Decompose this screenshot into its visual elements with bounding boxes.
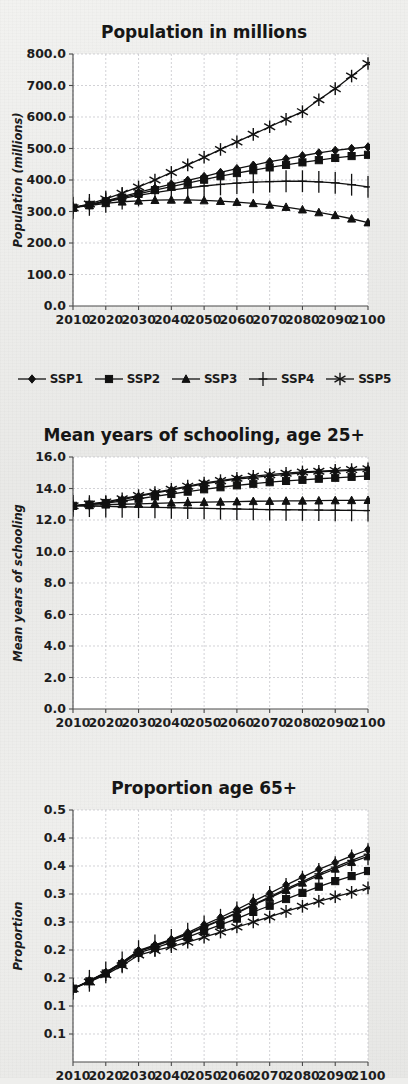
marker-square xyxy=(282,161,289,168)
x-tick-label: 2100 xyxy=(351,715,386,730)
x-tick-label: 2030 xyxy=(121,312,156,327)
y-tick-label: 0.3 xyxy=(44,886,66,901)
x-tick-label: 2020 xyxy=(88,1068,123,1083)
y-tick-label: 0.5 xyxy=(44,802,66,817)
x-tick-label: 2080 xyxy=(285,312,320,327)
x-tick-label: 2050 xyxy=(187,1068,222,1083)
legend-marker-star-icon xyxy=(325,372,355,386)
plot-area-population: 0.0100.0200.0300.0400.0500.0600.0700.080… xyxy=(0,42,408,342)
y-tick-label: 0.2 xyxy=(44,970,66,985)
legend-label: SSP2 xyxy=(127,372,160,386)
y-axis-label: Mean years of schooling xyxy=(11,504,25,662)
x-tick-label: 2070 xyxy=(252,715,287,730)
y-tick-label: 0.4 xyxy=(44,830,66,845)
marker-diamond xyxy=(28,375,35,383)
x-tick-label: 2100 xyxy=(351,1068,386,1083)
y-tick-label: 16.0 xyxy=(35,449,66,464)
schooling-chart-svg: 0.02.04.06.08.010.012.014.016.0201020202… xyxy=(0,445,408,745)
legend-item-ssp2: SSP2 xyxy=(94,372,160,386)
marker-plus xyxy=(259,372,268,386)
x-tick-label: 2090 xyxy=(318,312,353,327)
legend-label: SSP3 xyxy=(204,372,237,386)
x-tick-label: 2060 xyxy=(219,715,254,730)
marker-square xyxy=(364,151,371,158)
marker-square xyxy=(266,164,273,171)
legend-item-ssp1: SSP1 xyxy=(17,372,83,386)
y-tick-label: 0.3 xyxy=(44,914,66,929)
y-axis-label: Population (millions) xyxy=(11,112,25,247)
y-tick-label: 0.4 xyxy=(44,858,66,873)
plot-area-proportion: 0.10.10.20.20.30.30.40.40.52010202020302… xyxy=(0,798,408,1084)
x-tick-label: 2040 xyxy=(154,1068,189,1083)
x-tick-label: 2080 xyxy=(285,1068,320,1083)
x-tick-label: 2060 xyxy=(219,312,254,327)
legend-marker-plus-icon xyxy=(248,372,278,386)
legend-label: SSP1 xyxy=(50,372,83,386)
x-tick-label: 2050 xyxy=(187,715,222,730)
legend-marker-square-icon xyxy=(94,372,124,386)
marker-square xyxy=(332,878,339,885)
x-tick-label: 2020 xyxy=(88,715,123,730)
marker-square xyxy=(348,873,355,880)
chart-panel-population: Population in millions 0.0100.0200.0300.… xyxy=(0,0,408,355)
y-tick-label: 0.1 xyxy=(44,998,66,1013)
proportion-chart-svg: 0.10.10.20.20.30.30.40.40.52010202020302… xyxy=(0,798,408,1084)
legend-label: SSP5 xyxy=(358,372,391,386)
marker-square xyxy=(348,152,355,159)
x-tick-label: 2080 xyxy=(285,715,320,730)
legend-marker-diamond-icon xyxy=(17,372,47,386)
chart-title-proportion: Proportion age 65+ xyxy=(0,758,408,798)
marker-square xyxy=(315,157,322,164)
legend-item-ssp3: SSP3 xyxy=(171,372,237,386)
y-tick-label: 10.0 xyxy=(35,544,66,559)
y-axis-label: Proportion xyxy=(11,902,25,971)
x-tick-label: 2010 xyxy=(56,715,91,730)
y-tick-label: 12.0 xyxy=(35,512,66,527)
legend-marker-triangle-icon xyxy=(171,372,201,386)
marker-square xyxy=(105,375,112,382)
y-tick-label: 0.1 xyxy=(44,1026,66,1041)
chart-legend: SSP1SSP2SSP3SSP4SSP5 xyxy=(0,365,408,393)
x-tick-label: 2100 xyxy=(351,312,386,327)
x-tick-label: 2030 xyxy=(121,715,156,730)
y-tick-label: 2.0 xyxy=(44,670,66,685)
chart-panel-schooling: Mean years of schooling, age 25+ 0.02.04… xyxy=(0,405,408,745)
x-tick-label: 2010 xyxy=(56,1068,91,1083)
x-tick-label: 2070 xyxy=(252,1068,287,1083)
y-tick-label: 200.0 xyxy=(26,235,66,250)
x-tick-label: 2050 xyxy=(187,312,222,327)
y-tick-label: 700.0 xyxy=(26,78,66,93)
x-tick-label: 2010 xyxy=(56,312,91,327)
marker-square xyxy=(332,154,339,161)
x-tick-label: 2030 xyxy=(121,1068,156,1083)
y-tick-label: 6.0 xyxy=(44,607,66,622)
chart-title-population: Population in millions xyxy=(0,0,408,42)
y-tick-label: 800.0 xyxy=(26,46,66,61)
plot-area-schooling: 0.02.04.06.08.010.012.014.016.0201020202… xyxy=(0,445,408,745)
y-tick-label: 8.0 xyxy=(44,575,66,590)
x-tick-label: 2070 xyxy=(252,312,287,327)
legend-item-ssp4: SSP4 xyxy=(248,372,314,386)
x-tick-label: 2060 xyxy=(219,1068,254,1083)
y-tick-label: 0.2 xyxy=(44,942,66,957)
y-tick-label: 4.0 xyxy=(44,638,66,653)
x-tick-label: 2040 xyxy=(154,312,189,327)
legend-label: SSP4 xyxy=(281,372,314,386)
y-tick-label: 500.0 xyxy=(26,141,66,156)
x-tick-label: 2090 xyxy=(318,1068,353,1083)
y-tick-label: 100.0 xyxy=(26,267,66,282)
x-tick-label: 2090 xyxy=(318,715,353,730)
y-tick-label: 300.0 xyxy=(26,204,66,219)
chart-title-schooling: Mean years of schooling, age 25+ xyxy=(0,405,408,445)
chart-panel-proportion: Proportion age 65+ 0.10.10.20.20.30.30.4… xyxy=(0,758,408,1078)
marker-square xyxy=(364,867,371,874)
x-tick-label: 2040 xyxy=(154,715,189,730)
y-tick-label: 600.0 xyxy=(26,109,66,124)
legend-item-ssp5: SSP5 xyxy=(325,372,391,386)
x-tick-label: 2020 xyxy=(88,312,123,327)
marker-square xyxy=(299,159,306,166)
y-tick-label: 400.0 xyxy=(26,172,66,187)
y-tick-label: 14.0 xyxy=(35,481,66,496)
population-chart-svg: 0.0100.0200.0300.0400.0500.0600.0700.080… xyxy=(0,42,408,342)
